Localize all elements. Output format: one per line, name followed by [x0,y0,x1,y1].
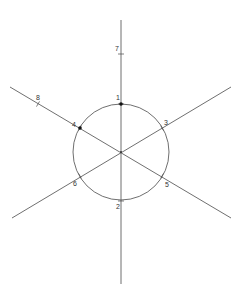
point-label: 5 [165,181,169,188]
point-5: 5 [160,173,169,188]
point-6: 6 [73,173,82,187]
point-label: 8 [36,94,40,101]
point-dot [119,102,123,106]
geometric-diagram: 12345678 [0,0,249,291]
point-7: 7 [115,45,124,54]
point-label: 7 [115,45,119,52]
point-2: 2 [116,201,124,210]
labeled-points: 12345678 [36,45,169,210]
point-dot [78,126,82,130]
point-label: 3 [164,119,168,126]
point-label: 4 [72,121,76,128]
point-label: 2 [116,203,120,210]
point-label: 6 [73,180,77,187]
center-point [120,151,122,153]
point-label: 1 [116,94,120,101]
